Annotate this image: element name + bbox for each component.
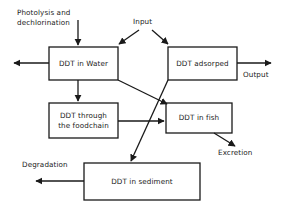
label-degradation: Degradation — [22, 160, 68, 170]
label-photolysis: Photolysis and dechlorination — [17, 8, 70, 27]
label-output: Output — [243, 70, 269, 80]
box-label-adsorped: DDT adsorped — [168, 47, 237, 80]
box-label-water: DDT in Water — [49, 47, 118, 80]
diagram-canvas: DDT in Water DDT adsorped DDT through th… — [0, 0, 289, 212]
label-excretion: Excretion — [218, 148, 253, 158]
arrow-input-to-adsorped — [152, 30, 168, 44]
box-label-foodchain: DDT through the foodchain — [49, 103, 118, 138]
arrow-input-to-water — [119, 30, 139, 44]
box-label-fish: DDT in fish — [166, 103, 232, 133]
arrow-water-to-fish — [118, 80, 167, 104]
box-label-sediment: DDT in sediment — [84, 163, 200, 200]
label-input: Input — [133, 17, 152, 27]
arrow-fish-to-excretion — [214, 133, 235, 146]
